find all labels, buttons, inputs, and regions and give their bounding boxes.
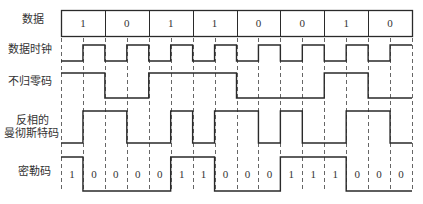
nrz-waveform bbox=[61, 73, 412, 98]
miller-bit-label: 0 bbox=[113, 168, 119, 180]
miller-bit-label: 0 bbox=[157, 168, 163, 180]
encoding-waveform-diagram: 10110010 1000011000111000 bbox=[0, 0, 423, 204]
data-bit-4: 0 bbox=[256, 17, 262, 29]
row-label-clock: 数据时钟 bbox=[8, 44, 52, 56]
miller-bit-label: 0 bbox=[135, 168, 141, 180]
miller-bit-label: 1 bbox=[69, 168, 75, 180]
miller-bit-label: 0 bbox=[376, 168, 382, 180]
data-bit-1: 0 bbox=[124, 17, 130, 29]
miller-half-bit-labels: 1000011000111000 bbox=[69, 168, 404, 180]
data-bit-6: 1 bbox=[343, 17, 349, 29]
row-label-miller: 密勒码 bbox=[18, 166, 51, 178]
data-bit-2: 1 bbox=[168, 17, 174, 29]
data-bit-7: 0 bbox=[387, 17, 393, 29]
data-bits-box: 10110010 bbox=[62, 10, 413, 37]
row-label-manchester-line1: 反相的 bbox=[10, 115, 54, 127]
miller-bit-label: 0 bbox=[223, 168, 229, 180]
row-label-manchester-line2: 曼彻斯特码 bbox=[4, 128, 59, 140]
miller-bit-label: 1 bbox=[289, 168, 295, 180]
miller-bit-label: 1 bbox=[201, 168, 207, 180]
inverted-manchester-waveform bbox=[61, 111, 412, 143]
miller-bit-label: 0 bbox=[267, 168, 273, 180]
data-bit-3: 1 bbox=[212, 17, 218, 29]
miller-bit-label: 0 bbox=[245, 168, 251, 180]
data-bit-5: 0 bbox=[300, 17, 306, 29]
miller-bit-label: 1 bbox=[332, 168, 338, 180]
miller-bit-label: 0 bbox=[354, 168, 360, 180]
miller-bit-label: 1 bbox=[179, 168, 185, 180]
data-clock-waveform bbox=[61, 45, 412, 61]
data-bit-0: 1 bbox=[80, 17, 86, 29]
miller-bit-label: 0 bbox=[398, 168, 404, 180]
row-label-data: 数据 bbox=[20, 14, 46, 26]
miller-bit-label: 1 bbox=[311, 168, 317, 180]
row-label-nrz: 不归零码 bbox=[8, 76, 52, 88]
miller-bit-label: 0 bbox=[91, 168, 97, 180]
